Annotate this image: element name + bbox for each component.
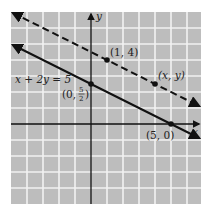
svg-text:5: 5 xyxy=(79,86,83,94)
coordinate-graph: x y x + 2y = 5 (0, 5 2 ) (5, 0) (1, 4) (… xyxy=(0,0,209,214)
point-x-y xyxy=(152,81,158,87)
svg-text:2: 2 xyxy=(79,95,83,103)
svg-text:): ) xyxy=(85,88,89,100)
point-5-0 xyxy=(168,121,174,127)
y-axis-label: y xyxy=(95,10,103,22)
point-5-0-label: (5, 0) xyxy=(146,129,174,141)
equation-label: x + 2y = 5 xyxy=(15,73,71,85)
point-x-y-label: (x, y) xyxy=(158,69,185,81)
point-0-5-2 xyxy=(88,81,94,87)
point-1-4-label: (1, 4) xyxy=(110,46,138,58)
point-1-4 xyxy=(104,57,110,63)
svg-text:(0,: (0, xyxy=(62,88,76,100)
